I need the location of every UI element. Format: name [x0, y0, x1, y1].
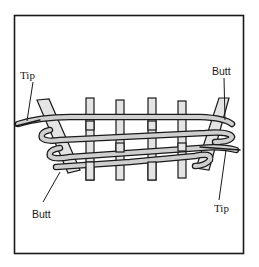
label-tip-top-left: Tip	[20, 70, 35, 81]
label-butt-top-right: Butt	[212, 66, 231, 77]
label-butt-bottom-left: Butt	[32, 209, 51, 220]
weaving-illustration	[0, 0, 259, 267]
stake-4	[178, 101, 186, 178]
label-tip-bottom-right: Tip	[214, 203, 229, 214]
weaving-diagram: Tip Butt Butt Tip	[0, 0, 259, 267]
